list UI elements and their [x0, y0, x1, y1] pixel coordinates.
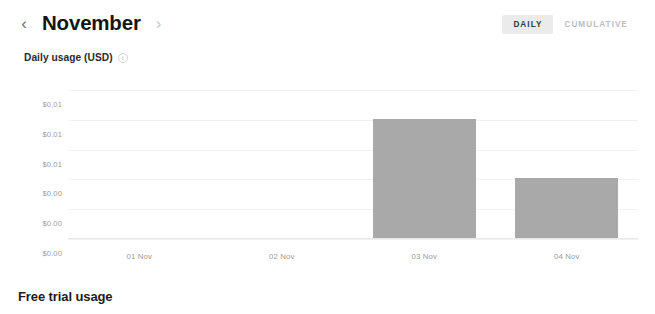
y-axis-label: $0.01 [2, 159, 62, 168]
view-mode-toggle: DAILY CUMULATIVE [502, 15, 639, 34]
chevron-left-icon[interactable]: ‹ [17, 12, 31, 34]
gridline [68, 239, 638, 240]
free-trial-usage-heading: Free trial usage [18, 290, 113, 303]
y-axis-label: $0.00 [2, 189, 62, 198]
page-title: November [40, 13, 143, 34]
gridline [68, 150, 638, 151]
chart-label-row: Daily usage (USD) i [24, 53, 128, 63]
y-axis-label: $0.01 [2, 129, 62, 138]
x-axis-label: 01 Nov [126, 252, 152, 261]
bar-04-nov[interactable] [515, 178, 618, 238]
y-axis-label: $0.00 [2, 249, 62, 258]
tab-cumulative[interactable]: CUMULATIVE [553, 15, 639, 34]
chart-title: Daily usage (USD) [24, 53, 113, 63]
y-axis-label: $0.01 [2, 100, 62, 109]
gridline [68, 90, 638, 91]
y-axis-label: $0.00 [2, 219, 62, 228]
gridline [68, 120, 638, 121]
x-axis-label: 03 Nov [411, 252, 437, 261]
plot-area [68, 90, 638, 239]
x-axis: 01 Nov02 Nov03 Nov04 Nov [68, 252, 638, 266]
tab-daily[interactable]: DAILY [502, 15, 553, 34]
y-axis: $0.01$0.01$0.01$0.00$0.00$0.00 [0, 90, 62, 239]
chevron-right-icon[interactable]: › [152, 12, 166, 34]
month-navigator: ‹ November › [0, 12, 166, 34]
info-icon[interactable]: i [118, 53, 128, 63]
daily-usage-chart: $0.01$0.01$0.01$0.00$0.00$0.00 01 Nov02 … [0, 76, 655, 266]
x-axis-label: 02 Nov [269, 252, 295, 261]
bar-03-nov[interactable] [373, 119, 476, 238]
x-axis-label: 04 Nov [554, 252, 580, 261]
